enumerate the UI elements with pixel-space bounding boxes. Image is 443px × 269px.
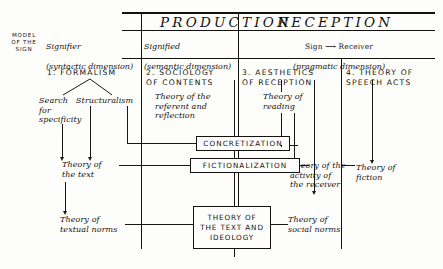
connector-concretization-tail-v xyxy=(281,145,282,147)
connector-center-spine-mid xyxy=(234,150,235,158)
header-signifier-title: Signifier xyxy=(46,42,81,51)
connector-speech-acts-down xyxy=(372,80,373,161)
connector-col3-spine xyxy=(314,80,315,192)
box-concretization[interactable]: CONCRETIZATION xyxy=(196,136,290,151)
header-signified-title: Signified xyxy=(144,42,180,51)
fork-formalism-branches xyxy=(56,79,120,97)
node-theory-of-referent-and-reflection: Theory of the referent and reflection xyxy=(155,92,235,121)
connector-structuralism-down xyxy=(90,106,91,158)
node-structuralism: Structuralism xyxy=(76,96,138,106)
connector-fictionalization-to-activity xyxy=(300,165,309,166)
header-signified: Signified (semantic dimension) xyxy=(144,32,238,72)
rule-under-banners xyxy=(122,30,435,31)
connector-col2-to-concretization xyxy=(141,143,197,144)
connector-center-spine-top xyxy=(234,80,235,136)
node-theory-of-textual-norms: Theory of textual norms xyxy=(60,215,128,234)
node-theory-of-the-text: Theory of the text xyxy=(62,160,122,179)
box-fictionalization[interactable]: FICTIONALIZATION xyxy=(190,158,300,173)
side-label-model-of-the-sign: MODEL OF THE SIGN xyxy=(2,32,46,54)
diagram-canvas: PRODUCTION RECEPTION MODEL OF THE SIGN S… xyxy=(0,0,443,269)
rule-col1-col2 xyxy=(141,58,142,249)
connector-textual-norms-to-ideology xyxy=(125,224,194,225)
column-title-aesthetics-of-reception: 3. AESTHETICS OF RECEPTION xyxy=(242,68,314,88)
node-theory-of-fiction: Theory of fiction xyxy=(356,163,416,182)
connector-activity-to-fiction xyxy=(341,165,355,166)
column-title-sociology-of-contents: 2. SOCIOLOGY OF CONTENTS xyxy=(146,68,214,88)
header-sign-receiver-title: Sign ⟶ Receiver xyxy=(305,42,373,51)
rule-col2-col3-header xyxy=(238,30,239,58)
connector-text-to-fictionalization xyxy=(119,165,191,166)
connector-center-spine-bottom xyxy=(234,249,235,257)
column-title-formalism: 1. FORMALISM xyxy=(47,68,116,78)
connector-text-to-textual-norms xyxy=(65,182,66,212)
box-theory-of-the-text-and-ideology[interactable]: THEORY OF THE TEXT AND IDEOLOGY xyxy=(193,206,271,249)
rule-col1-col2-header xyxy=(141,30,142,58)
connector-center-spine-lower xyxy=(234,172,235,207)
connector-ideology-to-social-norms xyxy=(271,224,288,225)
arrow-social-norms xyxy=(312,191,316,195)
column-title-theory-of-speech-acts: 4. THEORY OF SPEECH ACTS xyxy=(346,68,413,88)
rule-banner-divider xyxy=(141,12,142,30)
connector-search-down xyxy=(62,124,63,158)
connector-concretization-tail-h xyxy=(290,145,298,146)
connector-aesthetics-down xyxy=(281,80,282,92)
header-sign-receiver: Sign ⟶ Receiver (pragmatic dimension) xyxy=(241,32,437,72)
node-theory-of-social-norms: Theory of social norms xyxy=(288,215,358,234)
connector-structuralism-elbow-v xyxy=(127,106,128,144)
banner-production: PRODUCTION xyxy=(160,14,292,30)
header-signifier: Signifier (syntactic dimension) xyxy=(46,32,138,72)
banner-reception: RECEPTION xyxy=(278,14,393,30)
connector-reading-to-activity xyxy=(294,113,295,159)
